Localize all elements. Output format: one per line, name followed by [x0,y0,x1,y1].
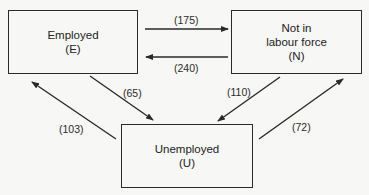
node-employed-code: (E) [65,42,80,56]
node-not-in-labour-force: Not in labour force (N) [231,10,362,74]
node-n-code: (N) [289,49,305,63]
node-employed-title: Employed [47,28,98,42]
flow-label-n-to-u: (110) [227,86,251,98]
flow-label-u-to-n: (72) [292,121,311,133]
flow-label-n-to-e: (240) [174,62,199,74]
flow-label-e-to-u: (65) [123,87,142,99]
arrow-e-to-u [90,76,153,120]
node-employed: Employed (E) [8,10,138,74]
arrow-n-to-u [218,77,280,121]
node-n-line-1: Not in [281,21,311,35]
node-unemployed: Unemployed (U) [121,124,253,188]
node-n-line-2: labour force [266,35,327,49]
node-unemployed-title: Unemployed [155,142,220,156]
node-unemployed-code: (U) [179,156,195,170]
flow-label-e-to-n: (175) [174,14,199,26]
flow-label-u-to-e: (103) [59,123,84,135]
